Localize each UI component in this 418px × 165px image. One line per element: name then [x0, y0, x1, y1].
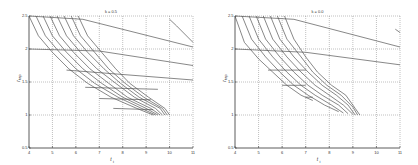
- x-tick-label: 11: [191, 150, 196, 155]
- x-tick-label: 9: [352, 150, 355, 155]
- data-series-line: [50, 16, 160, 115]
- x-tick-label: 5: [257, 150, 260, 155]
- x-tick-label: 4: [28, 150, 31, 155]
- y-tick-label: 0.5: [22, 145, 28, 150]
- data-series-line: [277, 16, 357, 115]
- left-plot-panel: 45678910110.511.522.5k = 0.5tirtap: [15, 9, 196, 164]
- x-axis-label-subscript: i: [113, 159, 114, 164]
- data-series-line: [170, 19, 193, 42]
- plot-title: k = 0.5: [105, 9, 118, 14]
- x-tick-label: 11: [398, 150, 403, 155]
- figure: 45678910110.511.522.5k = 0.5tirtap 45678…: [0, 0, 418, 165]
- y-tick-label: 2.5: [22, 13, 28, 18]
- x-tick-label: 5: [51, 150, 54, 155]
- data-series-line: [395, 29, 400, 32]
- data-series-line: [36, 16, 156, 115]
- x-axis-label: t: [110, 156, 112, 162]
- y-tick-label: 2.5: [228, 13, 234, 18]
- y-tick-label: 1.5: [22, 79, 28, 84]
- x-axis-label-subscript: i: [320, 159, 321, 164]
- y-axis-label-subscript: tap: [223, 73, 228, 79]
- y-axis-label-subscript: tap: [17, 73, 22, 79]
- x-tick-label: 10: [374, 150, 379, 155]
- data-series-line: [235, 16, 400, 47]
- plot-title: k = 0.0: [311, 9, 324, 14]
- y-tick-label: 2: [231, 46, 234, 51]
- chart-canvas: 45678910110.511.522.5k = 0.5tirtap 45678…: [0, 0, 418, 165]
- x-tick-label: 8: [122, 150, 125, 155]
- y-tick-label: 2: [25, 46, 28, 51]
- x-tick-label: 7: [305, 150, 308, 155]
- right-plot-panel: 45678910110.511.522.5k = 0.0tirtap: [221, 9, 403, 164]
- x-tick-label: 6: [281, 150, 284, 155]
- x-tick-label: 4: [234, 150, 237, 155]
- y-tick-label: 1.5: [228, 79, 234, 84]
- x-tick-label: 9: [145, 150, 148, 155]
- y-tick-label: 1: [25, 112, 28, 117]
- x-tick-label: 6: [75, 150, 78, 155]
- data-series-line: [235, 49, 400, 65]
- data-series-line: [67, 70, 194, 80]
- x-tick-label: 7: [98, 150, 101, 155]
- data-series-line: [285, 16, 360, 115]
- x-tick-label: 8: [328, 150, 331, 155]
- x-tick-label: 10: [167, 150, 172, 155]
- data-series-line: [29, 16, 153, 115]
- x-axis-label: t: [317, 156, 319, 162]
- y-tick-label: 0.5: [228, 145, 234, 150]
- data-series-line: [29, 16, 193, 47]
- y-tick-label: 1: [231, 112, 234, 117]
